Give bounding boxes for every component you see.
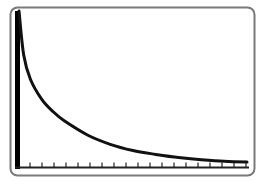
chart-container <box>0 0 261 181</box>
y-axis <box>15 11 20 169</box>
decay-curve-chart <box>0 0 261 181</box>
